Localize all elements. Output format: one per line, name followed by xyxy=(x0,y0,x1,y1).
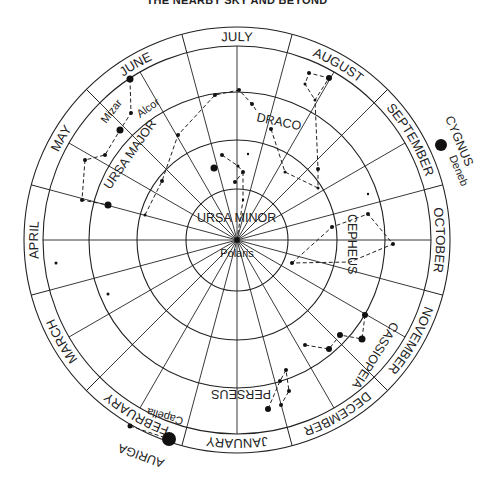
star-dot xyxy=(176,133,180,137)
star-dot xyxy=(127,76,134,83)
month-divider xyxy=(31,290,49,295)
star-dot xyxy=(287,389,291,393)
star-dot xyxy=(83,158,87,162)
star-dot xyxy=(307,71,311,75)
hour-spoke xyxy=(237,143,405,240)
star-dot xyxy=(367,193,369,195)
star-dot xyxy=(103,153,107,157)
star-dot xyxy=(337,332,343,338)
star-dot xyxy=(213,93,217,97)
hour-spoke xyxy=(237,240,334,408)
month-divider xyxy=(31,185,49,190)
month-label-january: JANUARY xyxy=(205,434,269,451)
star-dot xyxy=(316,167,320,171)
star-dot xyxy=(160,179,164,183)
hour-spoke xyxy=(100,240,237,377)
star-dot xyxy=(326,346,332,352)
star-dot xyxy=(250,102,254,106)
star-dot xyxy=(359,336,366,343)
constellation-line xyxy=(305,315,365,349)
star-dot xyxy=(317,187,320,190)
month-divider xyxy=(374,377,387,390)
star-dot xyxy=(233,180,237,184)
constellation-label: PERSEUS xyxy=(211,387,271,401)
star-dot xyxy=(284,368,288,372)
polaris-star xyxy=(235,238,240,243)
hour-spoke xyxy=(140,240,237,408)
month-divider xyxy=(182,34,187,52)
month-divider xyxy=(424,185,442,190)
month-divider xyxy=(374,89,387,102)
star-dot xyxy=(55,262,58,265)
star-dot xyxy=(435,139,447,151)
month-label-december: DECEMBER xyxy=(302,389,374,439)
star-dot xyxy=(247,153,249,155)
star-dot xyxy=(105,202,112,209)
star-dot xyxy=(211,165,218,172)
star-dot xyxy=(129,111,133,115)
constellation-label: URSA MAJOR xyxy=(101,117,159,192)
constellation-label: AURIGA xyxy=(116,441,166,471)
star-dot xyxy=(326,75,332,81)
star-dot xyxy=(278,379,282,383)
star-dot xyxy=(284,171,287,174)
star-dot xyxy=(162,432,176,446)
star-chart: JULYAUGUSTSEPTEMBEROCTOBERNOVEMBERDECEMB… xyxy=(0,0,500,479)
constellation-perseus: PERSEUS xyxy=(211,368,291,412)
star-dot xyxy=(265,406,271,412)
hour-spoke xyxy=(69,240,237,337)
star-dot xyxy=(237,165,240,168)
constellation-line xyxy=(222,155,243,182)
star-dot xyxy=(107,293,110,296)
constellation-label: DRACO xyxy=(255,110,302,133)
month-divider xyxy=(86,89,99,102)
star-dot xyxy=(220,153,224,157)
month-label-july: JULY xyxy=(221,29,254,45)
month-label-april: APRIL xyxy=(26,220,42,259)
star-dot xyxy=(362,312,368,318)
month-label-march: MARCH xyxy=(43,317,80,366)
month-divider xyxy=(182,427,187,445)
star-dot xyxy=(242,199,244,201)
star-dot xyxy=(128,424,133,429)
month-label-may: MAY xyxy=(48,122,75,154)
star-label-polaris: Polaris xyxy=(220,247,254,259)
star-dot xyxy=(80,198,84,202)
month-divider xyxy=(424,290,442,295)
hour-spoke xyxy=(237,240,405,337)
month-label-october: OCTOBER xyxy=(431,206,449,273)
star-dot xyxy=(241,170,245,174)
star-dot xyxy=(144,214,147,217)
month-divider xyxy=(287,34,292,52)
month-divider xyxy=(287,427,292,445)
star-dot xyxy=(269,127,273,131)
star-dot xyxy=(237,88,241,92)
star-dot xyxy=(290,261,294,265)
star-dot xyxy=(366,212,370,216)
star-label-alcor: Alcor xyxy=(134,95,162,119)
star-dot xyxy=(391,242,395,246)
star-dot xyxy=(279,403,283,407)
star-dot xyxy=(314,99,317,102)
constellation-label: CEPHEUS xyxy=(345,214,359,274)
star-dot xyxy=(330,225,334,229)
star-dot xyxy=(117,127,124,134)
constellation-draco: DRACO xyxy=(144,71,333,217)
month-divider xyxy=(86,377,99,390)
month-label-september: SEPTEMBER xyxy=(384,100,437,178)
star-dot xyxy=(304,83,307,86)
constellation-label: URSA MINOR xyxy=(197,211,276,225)
star-dot xyxy=(303,343,307,347)
